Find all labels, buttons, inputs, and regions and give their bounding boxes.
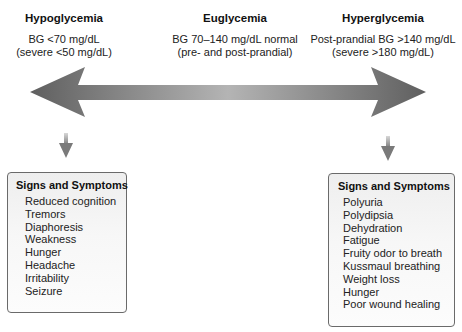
list-item: Hunger bbox=[343, 286, 454, 299]
list-item: Dehydration bbox=[343, 222, 454, 235]
hypoglycemia-symptoms-box: Signs and Symptoms Reduced cognition Tre… bbox=[7, 172, 127, 313]
list-item: Seizure bbox=[25, 285, 126, 298]
double-headed-arrow-icon bbox=[30, 67, 426, 117]
list-item: Weakness bbox=[25, 233, 126, 246]
list-item: Reduced cognition bbox=[25, 195, 126, 208]
list-item: Polyuria bbox=[343, 196, 454, 209]
list-item: Tremors bbox=[25, 208, 126, 221]
list-item: Kussmaul breathing bbox=[343, 260, 454, 273]
hyperglycemia-symptoms-list: Polyuria Polydipsia Dehydration Fatigue … bbox=[338, 196, 454, 311]
list-item: Irritability bbox=[25, 272, 126, 285]
list-item: Headache bbox=[25, 259, 126, 272]
list-item: Polydipsia bbox=[343, 209, 454, 222]
list-item: Hunger bbox=[25, 246, 126, 259]
list-item: Poor wound healing bbox=[343, 298, 454, 311]
hyperglycemia-symptoms-title: Signs and Symptoms bbox=[338, 180, 454, 192]
list-item: Fruity odor to breath bbox=[343, 247, 454, 260]
list-item: Weight loss bbox=[343, 273, 454, 286]
down-arrow-right-icon bbox=[381, 136, 395, 161]
hypoglycemia-symptoms-title: Signs and Symptoms bbox=[16, 179, 126, 191]
hypoglycemia-symptoms-list: Reduced cognition Tremors Diaphoresis We… bbox=[16, 195, 126, 297]
list-item: Diaphoresis bbox=[25, 221, 126, 234]
down-arrow-left-icon bbox=[59, 133, 73, 158]
list-item: Fatigue bbox=[343, 234, 454, 247]
hyperglycemia-symptoms-box: Signs and Symptoms Polyuria Polydipsia D… bbox=[328, 173, 455, 327]
